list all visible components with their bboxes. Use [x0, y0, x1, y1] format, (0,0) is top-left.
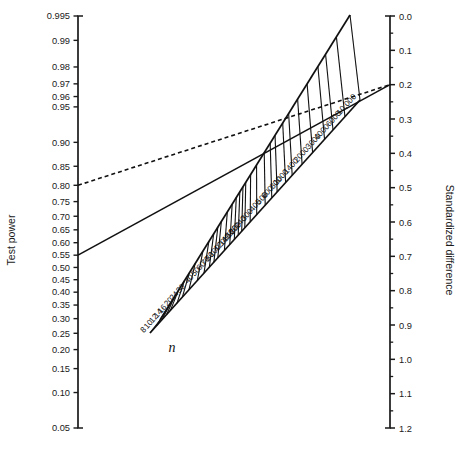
nomogram-svg: 0.9950.990.980.970.960.950.900.850.800.7… [0, 0, 459, 450]
left-axis-tick-label: 0.80 [52, 181, 70, 191]
left-axis-tick-label: 0.20 [52, 345, 70, 355]
right-axis-tick-label: 0.5 [399, 183, 412, 193]
left-axis-tick-label: 0.15 [52, 364, 70, 374]
right-axis-tick-label: 0.1 [399, 46, 412, 56]
left-axis-tick-label: 0.10 [52, 388, 70, 398]
left-axis-tick-label: 0.25 [52, 329, 70, 339]
left-axis-tick-label: 0.05 [52, 423, 70, 433]
right-axis-tick-label: 1.1 [399, 389, 412, 399]
right-axis-tick-label: 0.0 [399, 12, 412, 22]
right-axis-title: Standardized difference [444, 185, 456, 296]
left-axis-tick-label: 0.70 [52, 212, 70, 222]
left-axis-tick-label: 0.90 [52, 138, 70, 148]
left-axis-tick-label: 0.60 [52, 238, 70, 248]
right-axis: 0.00.10.20.30.40.50.60.70.80.91.01.11.2 [385, 12, 412, 434]
left-axis-tick-label: 0.85 [52, 162, 70, 172]
left-axis-tick-label: 0.97 [52, 79, 70, 89]
n-scale: 8101214162024304050607080100120140160180… [138, 15, 360, 335]
right-axis-tick-label: 1.2 [399, 424, 412, 434]
right-axis-tick-label: 0.2 [399, 80, 412, 90]
left-axis: 0.9950.990.980.970.960.950.900.850.800.7… [47, 11, 83, 433]
left-axis-tick-label: 0.95 [52, 102, 70, 112]
left-axis-tick-label: 0.98 [52, 62, 70, 72]
left-axis-tick-label: 0.65 [52, 225, 70, 235]
left-axis-tick-label: 0.55 [52, 250, 70, 260]
nomogram-figure: 0.9950.990.980.970.960.950.900.850.800.7… [0, 0, 459, 450]
left-axis-tick-label: 0.995 [47, 11, 70, 21]
n-scale-label: n [169, 340, 176, 355]
right-axis-tick-label: 0.7 [399, 252, 412, 262]
left-axis-tick-label: 0.96 [52, 92, 70, 102]
left-axis-tick-label: 0.99 [52, 36, 70, 46]
right-axis-tick-label: 0.9 [399, 321, 412, 331]
left-axis-tick-label: 0.75 [52, 197, 70, 207]
left-axis-tick-label: 0.50 [52, 263, 70, 273]
left-axis-tick-label: 0.35 [52, 300, 70, 310]
figure-caption [8, 440, 448, 450]
right-axis-tick-label: 1.0 [399, 355, 412, 365]
left-axis-tick-label: 0.30 [52, 314, 70, 324]
right-axis-tick-label: 0.3 [399, 115, 412, 125]
right-axis-tick-label: 0.6 [399, 218, 412, 228]
left-axis-tick-label: 0.40 [52, 287, 70, 297]
left-axis-title: Test power [5, 214, 17, 265]
right-axis-tick-label: 0.4 [399, 149, 412, 159]
right-axis-tick-label: 0.8 [399, 286, 412, 296]
left-axis-tick-label: 0.45 [52, 275, 70, 285]
